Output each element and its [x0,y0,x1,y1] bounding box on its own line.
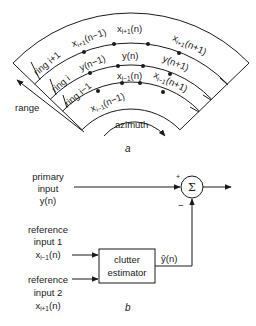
cell-dot [161,90,165,94]
cell-dot [141,64,145,68]
cell-dot [82,50,86,54]
azimuth-label: azimuth [115,119,148,130]
cell-y-n: y(n) [122,50,138,61]
ring-label-i: ring i [49,73,72,95]
range-label: range [15,102,39,113]
cell-dot [138,81,142,85]
reference-input-1-label: reference [28,224,68,235]
primary-input-label: primary [32,171,64,182]
cell-x-ip1-n+1: xi+1(n+1) [171,32,209,58]
caption-b: b [125,302,131,313]
primary-input-signal: y(n) [40,195,56,206]
reference-input-1-signal: xi−1(n) [35,249,60,261]
minus-sign: − [178,200,184,211]
figure-canvas: ring i+1 ring i ring i−1 xi+1(n−1) xi+1(… [0,0,256,326]
ring-separator-r1 [220,78,228,85]
right-radial-edge [180,63,249,130]
cell-dot [88,71,92,75]
estimator-label: clutter [114,254,140,265]
estimate-label: ŷ(n) [161,253,177,264]
cell-dot [96,89,100,93]
reference-input-2-label: input 2 [34,287,63,298]
reference-input-2-signal: xi+1(n) [35,300,60,312]
caption-a: a [125,143,131,154]
cell-dot [146,42,150,46]
panel-b-block-diagram: primary input y(n) Σ + − reference input… [28,171,231,313]
plus-sign: + [176,173,180,180]
reference-input-2-label: reference [28,274,68,285]
panel-a-sector-diagram: ring i+1 ring i ring i−1 xi+1(n−1) xi+1(… [13,13,249,154]
cell-y-n-1: y(n−1) [78,52,107,72]
reference-input-1-label: input 1 [34,236,63,247]
cell-x-im1-n-1: xi−1(n−1) [89,90,127,115]
estimator-label: estimator [107,267,146,278]
primary-input-label: input [38,183,59,194]
cell-dot [177,51,181,55]
cell-x-ip1-n: xi+1(n) [117,23,142,35]
cell-x-im1-n: xi−1(n) [117,70,142,82]
cell-dot [112,42,116,46]
cell-dot [116,64,120,68]
sigma-symbol: Σ [188,181,196,194]
